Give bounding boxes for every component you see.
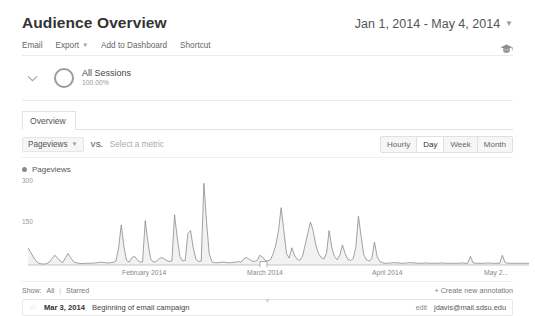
export-button[interactable]: Export ▼ (55, 41, 88, 50)
annotations-filter-starred[interactable]: Starred (66, 287, 89, 294)
export-label: Export (55, 41, 79, 50)
granularity-week[interactable]: Week (444, 137, 477, 152)
chevron-down-icon (27, 75, 38, 82)
metric-selector-row: Pageviews ▼ VS. Select a metric Hourly D… (22, 131, 513, 158)
x-axis-tick-april: April 2014 (372, 269, 403, 276)
vs-label: VS. (91, 140, 103, 149)
chevron-down-icon: ▼ (505, 20, 513, 28)
annotation-text: Beginning of email campaign (92, 303, 190, 312)
granularity-toggle-group: Hourly Day Week Month (380, 136, 513, 153)
annotation-owner-email: jdavis@mail.sdsu.edu (434, 303, 506, 312)
create-new-annotation-link[interactable]: + Create new annotation (434, 286, 513, 295)
x-axis-tick-march: March 2014 (247, 269, 283, 276)
chevron-down-icon: ▼ (82, 42, 88, 48)
segment-text: All Sessions 100.00% (82, 68, 131, 88)
segment-chip-all-sessions[interactable]: All Sessions 100.00% (54, 68, 131, 88)
annotations-filter-separator: | (59, 287, 61, 294)
segment-bar: All Sessions 100.00% (22, 55, 513, 101)
date-range-picker[interactable]: Jan 1, 2014 - May 4, 2014 ▼ (355, 17, 513, 31)
chevron-down-icon: ▼ (72, 141, 78, 147)
secondary-metric-select[interactable]: Select a metric (110, 140, 164, 149)
granularity-hourly[interactable]: Hourly (381, 137, 417, 152)
add-to-dashboard-button[interactable]: Add to Dashboard (101, 41, 167, 50)
donut-segment-icon (54, 68, 74, 88)
tab-strip: Overview (22, 110, 513, 130)
graduation-cap-icon[interactable] (500, 40, 513, 50)
segment-name: All Sessions (82, 68, 131, 79)
segment-percent: 100.00% (82, 79, 131, 87)
x-axis: February 2014 March 2014 April 2014 May … (22, 267, 513, 281)
primary-metric-label: Pageviews (28, 140, 68, 149)
annotation-date: Mar 3, 2014 (44, 303, 85, 312)
x-axis-tick-may: May 2... (484, 269, 508, 276)
annotations-filter-all[interactable]: All (46, 287, 54, 294)
annotation-edit-link[interactable]: edit (416, 304, 427, 311)
pageviews-line-chart[interactable] (28, 177, 529, 267)
plot-wrapper: 300 150 (22, 177, 513, 267)
page-title: Audience Overview (22, 14, 167, 32)
granularity-day[interactable]: Day (417, 137, 444, 152)
shortcut-button[interactable]: Shortcut (180, 41, 211, 50)
legend-label-pageviews: Pageviews (32, 165, 71, 174)
annotation-row-actions: edit jdavis@mail.sdsu.edu (416, 303, 506, 312)
annotations-show-label: Show: (22, 287, 41, 294)
date-range-label: Jan 1, 2014 - May 4, 2014 (355, 17, 500, 31)
segment-expand-toggle[interactable] (22, 75, 42, 82)
series-area-fill (28, 183, 529, 265)
collapse-panel-chevron-down-icon[interactable]: ▼ (264, 297, 271, 304)
primary-metric-select[interactable]: Pageviews ▼ (22, 137, 84, 152)
chart-legend: Pageviews (22, 165, 513, 174)
annotations-header: Show: All | Starred + Create new annotat… (22, 281, 513, 295)
granularity-month[interactable]: Month (478, 137, 512, 152)
chart-area: Pageviews 300 150 February 2014 March 20… (22, 165, 513, 281)
legend-marker-pageviews (22, 167, 27, 172)
email-button[interactable]: Email (22, 41, 42, 50)
tab-overview[interactable]: Overview (22, 111, 76, 130)
toolbar-actions: Email Export ▼ Add to Dashboard Shortcut (22, 41, 211, 50)
x-axis-tick-february: February 2014 (122, 269, 166, 276)
page-header: Audience Overview Jan 1, 2014 - May 4, 2… (22, 0, 513, 32)
star-icon[interactable]: ☆ (29, 303, 37, 312)
report-toolbar: Email Export ▼ Add to Dashboard Shortcut (22, 40, 513, 55)
